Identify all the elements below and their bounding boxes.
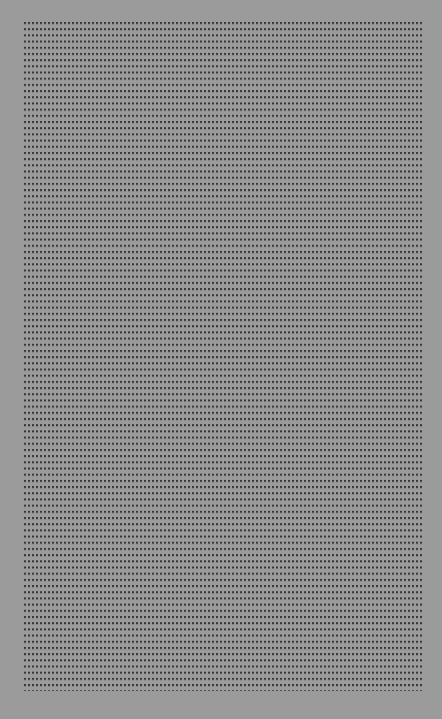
dot-matrix-pattern [24, 22, 422, 691]
gray-canvas [0, 0, 442, 719]
